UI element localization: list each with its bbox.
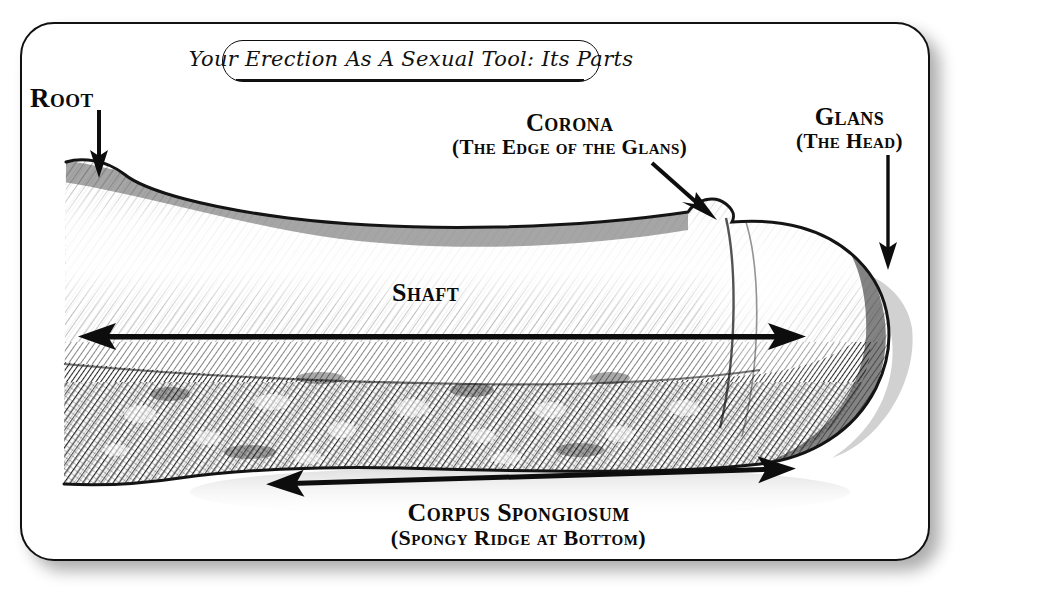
label-shaft: Shaft [392, 280, 459, 307]
figure-page: Your Erection As A Sexual Tool: Its Part… [0, 0, 1037, 606]
label-corona-title: Corona [526, 109, 613, 136]
label-root: Root [30, 85, 94, 113]
figure-title-underline [236, 79, 584, 81]
label-corpus-spongiosum: Corpus Spongiosum (Spongy Ridge at Botto… [0, 500, 1037, 549]
label-glans: Glans (The Head) [796, 104, 903, 152]
label-corona: Corona (The Edge of the Glans) [452, 110, 687, 158]
label-corpus-title: Corpus Spongiosum [407, 498, 629, 527]
label-corona-subtitle: (The Edge of the Glans) [452, 137, 687, 158]
label-corpus-subtitle: (Spongy Ridge at Bottom) [0, 527, 1037, 549]
label-glans-subtitle: (The Head) [796, 131, 903, 152]
figure-title-box: Your Erection As A Sexual Tool: Its Part… [222, 40, 600, 82]
figure-title: Your Erection As A Sexual Tool: Its Part… [189, 49, 634, 73]
figure-frame [20, 22, 930, 561]
label-glans-title: Glans [815, 103, 884, 130]
